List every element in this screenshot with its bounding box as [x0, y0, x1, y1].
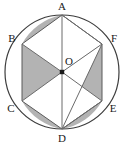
label-e: E [110, 102, 117, 114]
label-b: B [8, 32, 15, 44]
label-o: O [65, 55, 73, 67]
label-d: D [58, 132, 66, 144]
diagram-svg: A B C D E F O [0, 0, 125, 144]
center-point-o [60, 70, 64, 74]
label-c: C [7, 102, 14, 114]
label-a: A [58, 0, 66, 12]
geometry-figure: A B C D E F O [0, 0, 125, 144]
chord-af [62, 15, 102, 44]
label-f: F [111, 32, 117, 44]
shaded-triangle-boc [22, 44, 62, 101]
